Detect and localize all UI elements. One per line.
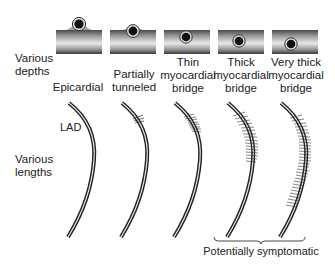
lad-curve-epicardial	[68, 103, 94, 237]
cross-section-epicardial	[56, 17, 102, 54]
lad-curve-very-thick-bridge	[280, 103, 311, 237]
cross-section-partially-tunneled	[110, 25, 156, 54]
lad-curve-partially-tunneled	[121, 103, 147, 237]
cross-section-thick-bridge	[218, 30, 264, 54]
lumen-icon	[182, 33, 191, 42]
cross-section-very-thick-bridge	[272, 30, 318, 54]
lumen-icon	[129, 27, 138, 36]
myocardium-block	[56, 30, 102, 54]
diagram-graphics	[0, 0, 335, 266]
cross-section-thin-bridge	[164, 30, 210, 54]
lad-curve-thick-bridge	[227, 103, 258, 237]
bracket	[214, 237, 305, 244]
lumen-icon	[235, 37, 244, 46]
lad-curve-thin-bridge	[174, 103, 201, 237]
lumen-icon	[74, 19, 83, 28]
lumen-icon	[287, 40, 296, 49]
